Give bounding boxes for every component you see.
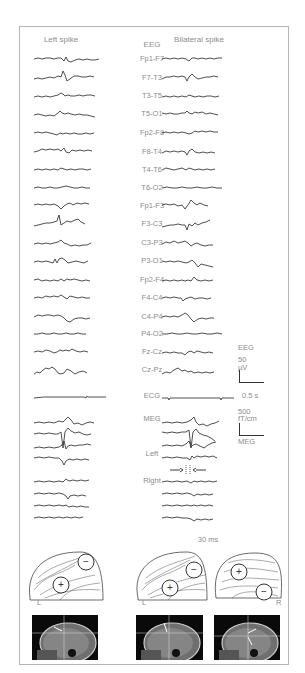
mri-brain-image <box>136 615 203 660</box>
pole-negative: − <box>191 565 197 575</box>
mri-panel-bilateral-right <box>214 615 280 660</box>
pole-positive: + <box>236 567 242 577</box>
mri-brain-image <box>32 615 98 660</box>
pole-positive: + <box>167 583 173 593</box>
mri-panel-left-spike <box>32 615 98 660</box>
pole-negative: − <box>261 587 267 597</box>
mri-panel-bilateral-left <box>136 615 203 660</box>
mri-brain-image <box>214 615 280 660</box>
pole-positive: + <box>58 580 64 590</box>
topomap-side-label: L <box>142 599 146 607</box>
pole-negative: − <box>83 557 89 567</box>
topomap-side-label: R <box>276 599 281 607</box>
topomap-side-label: L <box>37 599 41 607</box>
topographic-maps <box>0 0 305 673</box>
